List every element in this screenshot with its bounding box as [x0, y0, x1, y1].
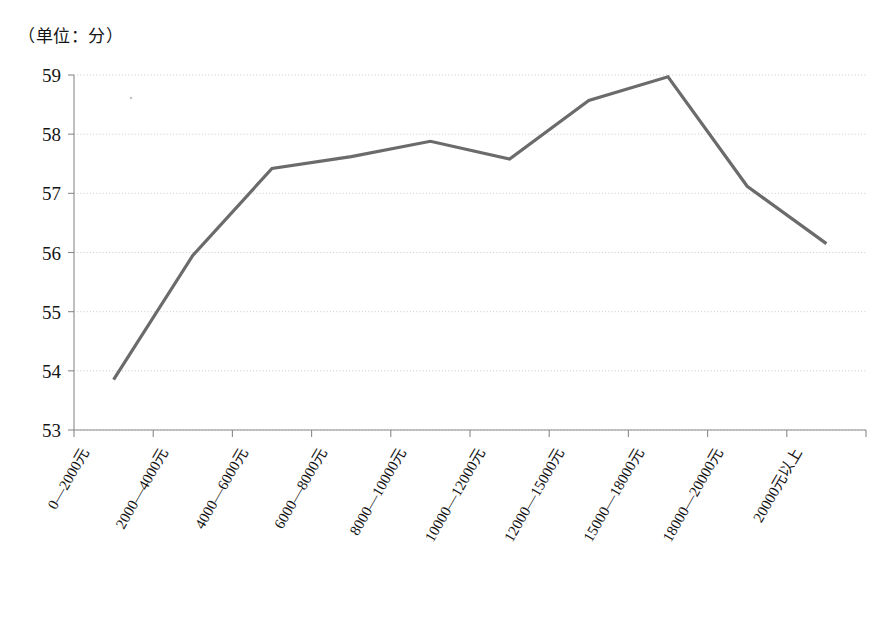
x-tick-label: 20000元以上 [750, 446, 805, 525]
y-tick-label: 59 [42, 65, 61, 86]
x-tick-label: 6000—8000元 [271, 446, 330, 532]
x-tick-label: 4000—6000元 [192, 446, 251, 532]
y-tick-label: 57 [42, 183, 61, 204]
x-tick-label: 2000—4000元 [113, 446, 172, 532]
x-tick-label: 10000—12000元 [422, 445, 488, 544]
x-tick-label: 8000—10000元 [346, 446, 409, 538]
speck-artifact [130, 97, 132, 99]
y-tick-label: 58 [42, 124, 61, 145]
y-tick-mark-group [68, 75, 74, 430]
gridline-group [74, 75, 866, 430]
chart-container: （单位：分） 59585756555453 0—2000元2000—4000元4… [0, 0, 892, 623]
y-tick-label: 55 [42, 302, 61, 323]
line-chart-svg: 59585756555453 0—2000元2000—4000元4000—600… [0, 0, 892, 623]
y-tick-label: 54 [42, 361, 62, 382]
x-tick-label: 0—2000元 [45, 446, 93, 512]
x-tick-label: 15000—18000元 [580, 446, 646, 545]
y-tick-label: 56 [42, 243, 61, 264]
y-tick-label: 53 [42, 420, 61, 441]
data-series-line [114, 77, 827, 380]
x-tick-label-group: 0—2000元2000—4000元4000—6000元6000—8000元800… [45, 445, 805, 544]
y-tick-label-group: 59585756555453 [42, 65, 62, 441]
x-tick-label: 12000—15000元 [501, 446, 567, 545]
x-tick-label: 18000—20000元 [659, 446, 725, 545]
x-tick-mark-group [74, 430, 866, 437]
